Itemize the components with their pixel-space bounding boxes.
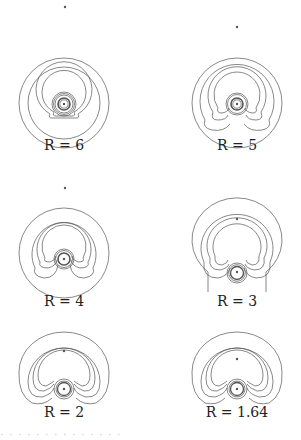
- panel-r5: [192, 26, 282, 148]
- outer-point-marker: [236, 358, 238, 360]
- panel-label-r3: R = 3: [177, 293, 297, 309]
- panel-r6: [19, 6, 109, 148]
- panel-r4-3: [192, 198, 282, 292]
- panel-label-r5: R = 5: [177, 137, 297, 153]
- figure: R = 6 R = 5 R = 4 R = 3 R = 2 R = 1.64 ·…: [0, 0, 301, 440]
- panel-label-r6: R = 6: [4, 137, 124, 153]
- caption-fragment: · · · · · · · · · · · · · ·: [0, 429, 301, 440]
- outer-point-marker: [63, 350, 65, 352]
- outer-point-marker: [64, 187, 66, 189]
- outer-point-marker: [236, 218, 238, 220]
- panel-r1-64: [192, 332, 282, 404]
- panel-r4: [19, 187, 109, 298]
- panel-label-r4: R = 4: [4, 293, 124, 309]
- outer-point-marker: [64, 6, 66, 8]
- panel-label-r1-64: R = 1.64: [177, 404, 297, 420]
- panel-label-r2: R = 2: [4, 404, 124, 420]
- outer-point-marker: [236, 26, 238, 28]
- panel-r2: [19, 332, 109, 404]
- contour-plots: [0, 0, 301, 440]
